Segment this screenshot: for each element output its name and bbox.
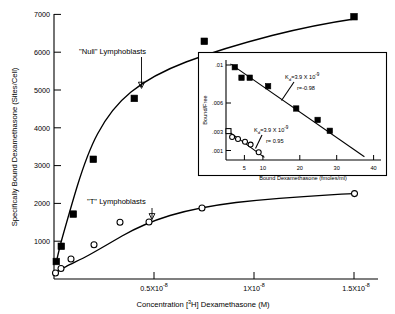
- binding-curve-figure: 1000 2000 3000 4000 5000 6000 7000 0.5X1…: [0, 0, 395, 314]
- inset-x-axis-title: Bound Dexamethasone (fmoles/ml): [259, 175, 347, 181]
- main-y-tick-label-1000: 1000: [34, 237, 50, 246]
- main-y-tick-label-5000: 5000: [34, 86, 50, 95]
- inset-x-tick-label-30: 30: [334, 165, 340, 171]
- main-x-ticks: [154, 272, 354, 279]
- null-lymphoblasts-arrow: [138, 57, 144, 88]
- inset-y-tick-label-001: .001: [212, 148, 223, 154]
- main-x-axis-title: Concentration [3H] Dexamethasone (M): [136, 299, 269, 309]
- main-x-tick-label-1e-8: 1X10-8: [243, 282, 265, 293]
- main-y-tick-label-2000: 2000: [34, 199, 50, 208]
- inset-x-tick-label-20: 20: [297, 165, 303, 171]
- inset-x-tick-label-5: 5: [243, 165, 246, 171]
- main-y-ticks: [54, 14, 61, 241]
- main-y-tick-label-4000: 4000: [34, 124, 50, 133]
- inset-y-tick-label-003: .003: [212, 129, 223, 135]
- t-lymphoblasts-arrow: [149, 208, 155, 220]
- main-y-tick-labels: 1000 2000 3000 4000 5000 6000 7000: [34, 10, 50, 246]
- inset-scatchard-plot: .001 .003 .006 .01 5 10 20 30 40 B: [199, 53, 387, 182]
- figure-container: 1000 2000 3000 4000 5000 6000 7000 0.5X1…: [0, 0, 395, 314]
- null-lymphoblasts-label: "Null" Lymphoblasts: [79, 47, 146, 56]
- inset-x-tick-label-40: 40: [370, 165, 376, 171]
- main-y-tick-label-6000: 6000: [34, 48, 50, 57]
- main-y-tick-label-3000: 3000: [34, 161, 50, 170]
- inset-y-tick-label-006: .006: [212, 100, 223, 106]
- main-x-tick-label-1.5e-8: 1.5X10-8: [342, 282, 370, 293]
- inset-annot-null-r: r=-0.98: [297, 85, 315, 91]
- main-y-tick-label-7000: 7000: [34, 10, 50, 19]
- inset-y-tick-label-01: .01: [215, 62, 223, 68]
- inset-x-tick-label-10: 10: [260, 165, 266, 171]
- main-x-tick-labels: 0.5X10-8 1X10-8 1.5X10-8: [140, 282, 370, 293]
- inset-frame: [199, 53, 387, 176]
- main-y-axis-title: Specifically Bound Dexamethasone (Sites/…: [10, 67, 19, 226]
- inset-y-axis-title: Bound/Free: [202, 95, 208, 124]
- main-x-tick-label-0.5e-8: 0.5X10-8: [140, 282, 168, 293]
- inset-annot-t-r: r= 0.95: [266, 138, 284, 144]
- t-lymphoblasts-label: "T" Lymphoblasts: [87, 197, 146, 206]
